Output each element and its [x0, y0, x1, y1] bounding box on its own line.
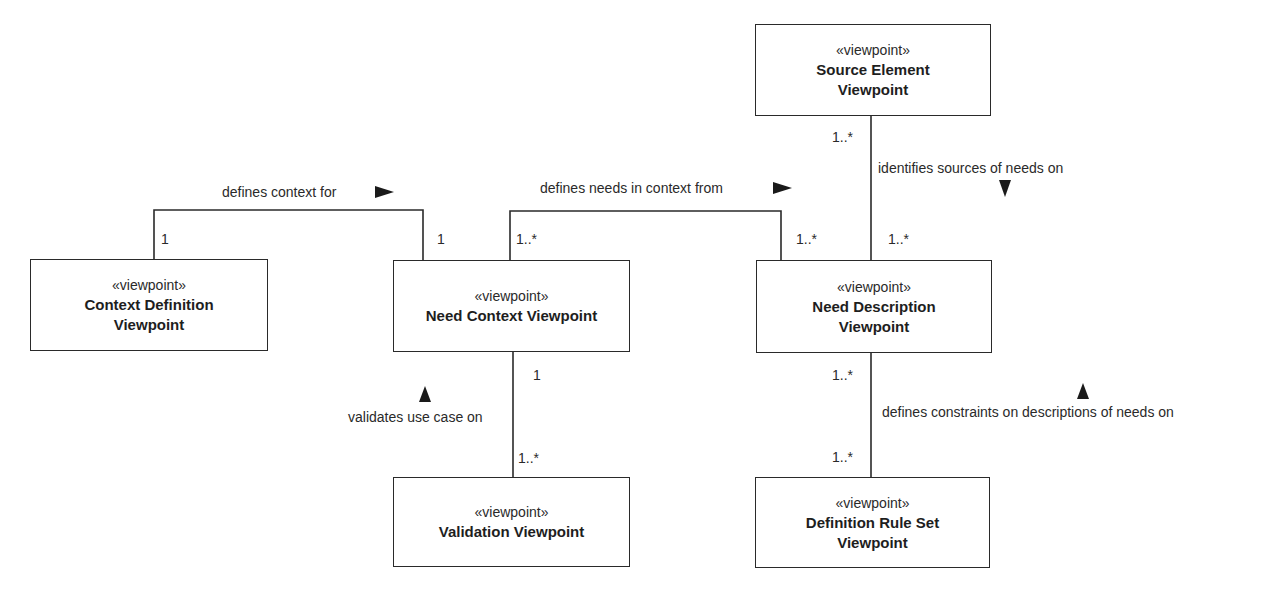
- multiplicity-label: 1: [533, 367, 541, 383]
- stereotype-label: «viewpoint»: [112, 275, 186, 295]
- viewpoint-box-context-definition[interactable]: «viewpoint» Context Definition Viewpoint: [30, 259, 268, 351]
- direction-arrow-down-icon: [999, 180, 1011, 197]
- multiplicity-label: 1..*: [832, 367, 853, 383]
- direction-arrow-right-icon: [375, 186, 394, 198]
- viewpoint-box-validation[interactable]: «viewpoint» Validation Viewpoint: [393, 477, 630, 567]
- viewpoint-box-need-description[interactable]: «viewpoint» Need Description Viewpoint: [756, 260, 992, 353]
- uml-diagram-canvas: «viewpoint» Context Definition Viewpoint…: [0, 0, 1275, 596]
- multiplicity-label: 1: [437, 231, 445, 247]
- multiplicity-label: 1: [161, 231, 169, 247]
- viewpoint-box-definition-rule-set[interactable]: «viewpoint» Definition Rule Set Viewpoin…: [755, 477, 990, 568]
- edge-label-defines-constraints-on-descriptions-of-needs-on: defines constraints on descriptions of n…: [882, 404, 1174, 420]
- edge-label-validates-use-case-on: validates use case on: [348, 409, 483, 425]
- multiplicity-label: 1..*: [518, 450, 539, 466]
- direction-arrow-right-icon: [773, 182, 792, 194]
- direction-arrow-up-icon: [419, 386, 431, 402]
- stereotype-label: «viewpoint»: [837, 277, 911, 297]
- multiplicity-label: 1..*: [516, 231, 537, 247]
- multiplicity-label: 1..*: [796, 231, 817, 247]
- stereotype-label: «viewpoint»: [836, 40, 910, 60]
- multiplicity-label: 1..*: [832, 129, 853, 145]
- multiplicity-label: 1..*: [888, 231, 909, 247]
- edge-defines-context-for[interactable]: [154, 210, 423, 260]
- viewpoint-name: Definition Rule Set Viewpoint: [806, 513, 939, 553]
- viewpoint-name: Validation Viewpoint: [439, 522, 585, 542]
- viewpoint-name: Need Description Viewpoint: [812, 297, 935, 337]
- edge-defines-needs-in-context-from[interactable]: [510, 211, 781, 260]
- viewpoint-name: Context Definition Viewpoint: [84, 295, 213, 335]
- edge-label-defines-needs-in-context-from: defines needs in context from: [540, 180, 723, 196]
- viewpoint-box-source-element[interactable]: «viewpoint» Source Element Viewpoint: [755, 24, 991, 116]
- viewpoint-name: Need Context Viewpoint: [426, 306, 597, 326]
- edge-label-defines-context-for: defines context for: [222, 184, 336, 200]
- stereotype-label: «viewpoint»: [836, 493, 910, 513]
- multiplicity-label: 1..*: [832, 449, 853, 465]
- viewpoint-name: Source Element Viewpoint: [816, 60, 929, 100]
- direction-arrow-up-icon: [1077, 383, 1089, 399]
- edge-label-identifies-sources-of-needs-on: identifies sources of needs on: [878, 160, 1063, 176]
- stereotype-label: «viewpoint»: [475, 286, 549, 306]
- viewpoint-box-need-context[interactable]: «viewpoint» Need Context Viewpoint: [393, 260, 630, 352]
- stereotype-label: «viewpoint»: [475, 502, 549, 522]
